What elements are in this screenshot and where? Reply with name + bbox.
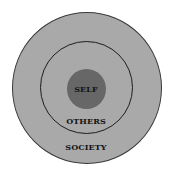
self-label: SELF <box>1 84 170 94</box>
concentric-circles-diagram: SELF OTHERS SOCIETY <box>0 0 170 178</box>
others-label: OTHERS <box>1 116 170 126</box>
society-label: SOCIETY <box>1 142 170 152</box>
